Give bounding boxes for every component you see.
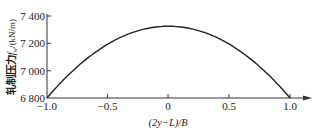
x-axis-arrow-icon	[303, 96, 312, 101]
y-tick-label: 7 400	[20, 10, 45, 22]
x-tick-label: −0.5	[98, 100, 118, 112]
y-tick-label: 7 200	[20, 37, 45, 49]
chart: 7 400 7 200 7 000 6 800 −1.0 −0.5 0 0.5 …	[0, 0, 314, 133]
x-tick-label: 0.5	[222, 100, 236, 112]
data-curve	[47, 26, 290, 98]
y-tick-label: 7 000	[20, 65, 45, 77]
x-axis-label: (2y−L)/B	[148, 117, 188, 129]
x-tick-label: −1.0	[37, 100, 57, 112]
x-ticks: −1.0 −0.5 0 0.5 1.0	[37, 94, 297, 112]
y-axis-label: 轧制压力fw/(kN/m)	[5, 19, 18, 95]
x-tick-label: 0	[165, 100, 171, 112]
svg-text:轧制压力fw/(kN/m): 轧制压力fw/(kN/m)	[5, 19, 18, 95]
x-tick-label: 1.0	[283, 100, 297, 112]
y-ticks: 7 400 7 200 7 000 6 800	[20, 10, 51, 104]
